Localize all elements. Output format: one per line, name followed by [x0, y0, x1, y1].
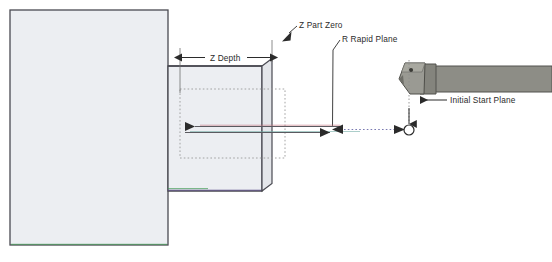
cnc-boring-diagram: Z Depth Z Part Zero R Rapid Plane — [0, 0, 552, 262]
insert-clamp-screw — [409, 68, 413, 72]
tool-tip-position-marker — [404, 125, 414, 135]
cutting-tool — [399, 63, 552, 94]
part-main-block — [10, 10, 168, 245]
z-part-zero-label: Z Part Zero — [299, 20, 343, 30]
r-rapid-plane-leader: R Rapid Plane — [333, 34, 398, 126]
insert-top-facet — [402, 63, 426, 72]
part-bevel-face — [262, 59, 272, 192]
part-stepped-block — [168, 59, 272, 192]
z-depth-label: Z Depth — [210, 53, 241, 63]
initial-start-plane-label: Initial Start Plane — [450, 95, 516, 105]
return-path-right-arrowhead — [320, 128, 330, 137]
rapid-traverse-arrowhead — [394, 125, 405, 134]
rapid-plane-arrowhead — [332, 125, 343, 135]
z-part-zero-leader: Z Part Zero — [282, 20, 343, 42]
r-rapid-plane-line — [333, 40, 341, 126]
diagram-canvas: Z Depth Z Part Zero R Rapid Plane — [0, 0, 552, 262]
tool-holder-shank — [433, 66, 552, 92]
r-rapid-plane-label: R Rapid Plane — [342, 34, 398, 44]
z-part-zero-arrowhead — [282, 32, 292, 42]
